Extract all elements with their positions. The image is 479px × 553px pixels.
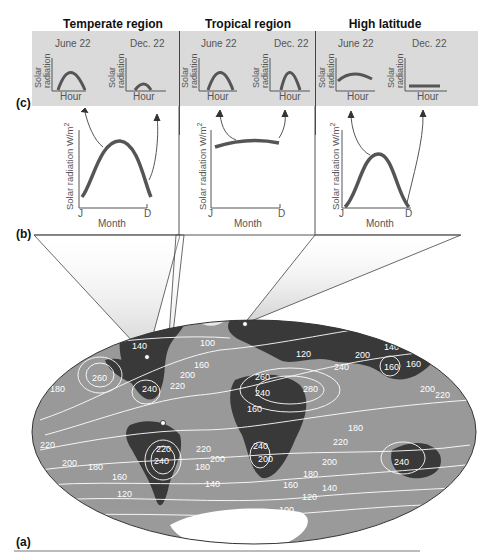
temperate-location-dot bbox=[145, 355, 150, 360]
svg-text:240: 240 bbox=[142, 384, 157, 394]
svg-text:160: 160 bbox=[283, 480, 298, 490]
tropical-location-dot bbox=[161, 421, 166, 426]
svg-text:220: 220 bbox=[435, 390, 450, 400]
svg-text:280: 280 bbox=[303, 384, 318, 394]
annual-charts bbox=[79, 108, 426, 208]
svg-text:240: 240 bbox=[154, 456, 169, 466]
svg-text:200: 200 bbox=[322, 457, 337, 467]
svg-text:200: 200 bbox=[355, 350, 370, 360]
svg-text:180: 180 bbox=[348, 423, 363, 433]
svg-text:200: 200 bbox=[62, 458, 77, 468]
svg-text:220: 220 bbox=[156, 444, 171, 454]
svg-text:220: 220 bbox=[40, 440, 55, 450]
svg-text:100: 100 bbox=[318, 311, 333, 321]
svg-text:160: 160 bbox=[406, 359, 421, 369]
world-map: 80 120 140 100 160 200 220 240 260 180 2… bbox=[32, 299, 476, 550]
svg-text:160: 160 bbox=[194, 360, 209, 370]
svg-text:200: 200 bbox=[180, 370, 195, 380]
highlat-location-dot bbox=[243, 322, 248, 327]
svg-text:120: 120 bbox=[97, 336, 112, 346]
svg-text:260: 260 bbox=[92, 373, 107, 383]
daily-charts bbox=[52, 58, 447, 91]
svg-text:180: 180 bbox=[195, 462, 210, 472]
svg-text:180: 180 bbox=[303, 469, 318, 479]
svg-text:140: 140 bbox=[205, 479, 220, 489]
svg-text:200: 200 bbox=[258, 454, 273, 464]
svg-text:140: 140 bbox=[384, 342, 399, 352]
svg-text:200: 200 bbox=[420, 384, 435, 394]
svg-text:120: 120 bbox=[302, 492, 317, 502]
svg-text:160: 160 bbox=[112, 472, 127, 482]
svg-text:100: 100 bbox=[279, 505, 294, 515]
svg-text:240: 240 bbox=[253, 441, 268, 451]
svg-text:220: 220 bbox=[196, 444, 211, 454]
svg-text:140: 140 bbox=[132, 341, 147, 351]
svg-text:220: 220 bbox=[333, 437, 348, 447]
svg-text:80: 80 bbox=[333, 313, 343, 323]
svg-text:160: 160 bbox=[247, 404, 262, 414]
svg-text:180: 180 bbox=[88, 462, 103, 472]
svg-text:120: 120 bbox=[117, 489, 132, 499]
svg-text:240: 240 bbox=[334, 362, 349, 372]
svg-text:260: 260 bbox=[255, 372, 270, 382]
svg-text:100: 100 bbox=[200, 338, 215, 348]
svg-text:240: 240 bbox=[394, 457, 409, 467]
figure-graphics: 80 120 140 100 160 200 220 240 260 180 2… bbox=[0, 0, 479, 553]
svg-text:240: 240 bbox=[255, 388, 270, 398]
svg-text:140: 140 bbox=[322, 483, 337, 493]
svg-text:120: 120 bbox=[296, 349, 311, 359]
svg-text:220: 220 bbox=[170, 381, 185, 391]
svg-text:160: 160 bbox=[384, 362, 399, 372]
svg-text:200: 200 bbox=[210, 454, 225, 464]
